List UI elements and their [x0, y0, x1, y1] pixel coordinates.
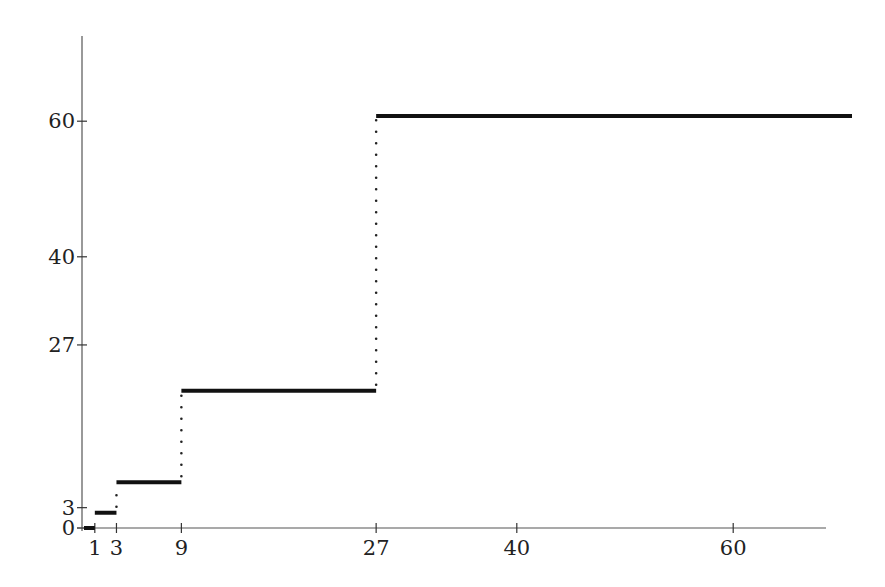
- x-tick-label: 1: [88, 536, 101, 560]
- step-segments: [84, 116, 852, 528]
- x-tick-label: 27: [363, 536, 390, 560]
- y-tick-label: 40: [48, 245, 75, 269]
- x-tick-label: 60: [720, 536, 747, 560]
- y-tick-label: 60: [48, 109, 75, 133]
- step-function-chart: 03274060 139274060: [0, 0, 885, 587]
- x-tick-label: 40: [503, 536, 530, 560]
- y-axis: 03274060: [48, 36, 87, 540]
- x-tick-label: 3: [110, 536, 123, 560]
- jump-lines: [116, 120, 376, 507]
- y-tick-label: 3: [62, 496, 75, 520]
- y-tick-label: 27: [48, 333, 75, 357]
- x-tick-label: 9: [175, 536, 188, 560]
- x-axis: 139274060: [77, 523, 826, 560]
